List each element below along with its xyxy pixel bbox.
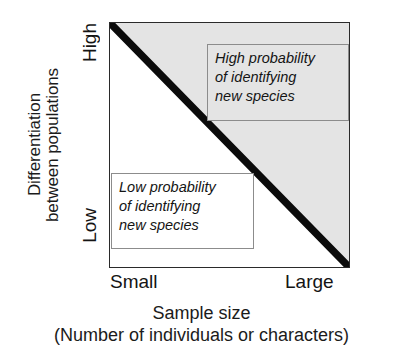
y-axis-title-line-1: Differentiation	[26, 93, 43, 196]
x-axis-title-line-1: Sample size	[0, 303, 403, 325]
x-axis-title: Sample size (Number of individuals or ch…	[0, 303, 403, 347]
x-axis-tick-small: Small	[110, 272, 158, 291]
x-axis-tick-large: Large	[285, 272, 334, 291]
annotation-low-probability: Low probability of identifying new speci…	[111, 173, 254, 249]
y-axis-tick-low: Low	[80, 208, 99, 243]
x-axis-title-line-2: (Number of individuals or characters)	[0, 325, 403, 347]
annotation-high-probability: High probability of identifying new spec…	[207, 44, 349, 121]
figure-container: Differentiation between populations High…	[0, 0, 403, 357]
y-axis-title-line-2: between populations	[44, 68, 61, 222]
y-axis-tick-high: High	[80, 23, 99, 62]
y-axis-title: Differentiation between populations	[14, 22, 72, 268]
plot-area: High probability of identifying new spec…	[109, 22, 350, 268]
